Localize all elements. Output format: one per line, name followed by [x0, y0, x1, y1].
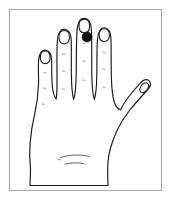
- figure-panel: Line drawing of the back of a hand with …: [0, 0, 174, 205]
- lesion-marker-group: [82, 32, 92, 42]
- ring-finger-nail: [99, 29, 109, 42]
- pigmented-lesion-dot: [82, 32, 92, 42]
- hand-outline-group: [30, 18, 151, 185]
- index-finger-nail: [59, 30, 69, 43]
- middle-finger-nail: [79, 19, 90, 33]
- hand-illustration: [9, 9, 163, 192]
- hand-outline-path: [30, 18, 151, 185]
- little-finger-nail: [40, 51, 50, 64]
